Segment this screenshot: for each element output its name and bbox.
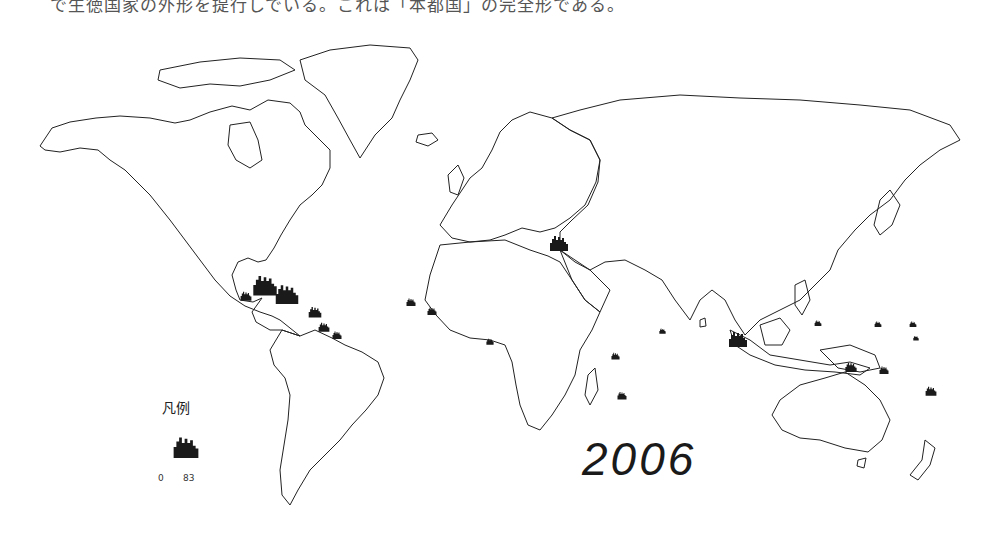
arabian-peninsula	[560, 250, 610, 312]
arctic-islands	[158, 58, 295, 88]
marker-icon[interactable]	[618, 392, 627, 400]
marker-icon[interactable]	[241, 292, 252, 301]
world-map	[0, 0, 995, 541]
marker-icon[interactable]	[815, 320, 822, 326]
africa-outline	[425, 240, 600, 430]
marker-icon[interactable]	[276, 285, 299, 304]
marker-icon[interactable]	[407, 299, 416, 307]
japan-outline	[874, 190, 900, 235]
tasmania-outline	[857, 458, 866, 468]
marker-icon[interactable]	[875, 321, 882, 327]
south-america-outline	[270, 330, 384, 505]
year-label: 2006	[582, 432, 696, 486]
marker-icon[interactable]	[611, 353, 619, 360]
marker-icon[interactable]	[319, 323, 330, 332]
legend-title: 凡例	[162, 397, 190, 417]
greenland-outline	[300, 45, 418, 158]
marker-icon[interactable]	[333, 332, 342, 340]
new-zealand-outline	[910, 440, 935, 480]
cluster-marker-icon	[172, 436, 200, 458]
marker-icon[interactable]	[309, 307, 322, 318]
sri-lanka-outline	[700, 318, 706, 327]
marker-icon[interactable]	[926, 387, 937, 396]
iceland-outline	[416, 133, 438, 146]
marker-icon[interactable]	[659, 329, 665, 334]
borneo-outline	[760, 318, 790, 345]
marker-icon[interactable]	[845, 363, 856, 372]
marker-icon[interactable]	[428, 308, 437, 316]
legend-max-label: 83	[183, 473, 194, 483]
marker-icon[interactable]	[913, 336, 918, 341]
hudson-bay	[228, 122, 262, 168]
asia-outline	[552, 95, 960, 335]
marker-icon[interactable]	[910, 321, 917, 327]
marker-icon[interactable]	[253, 276, 276, 296]
marker-icon[interactable]	[550, 236, 568, 251]
legend-min-label: 0	[158, 473, 164, 483]
marker-icon[interactable]	[880, 367, 889, 375]
madagascar-outline	[585, 368, 598, 405]
australia-outline	[772, 372, 890, 452]
